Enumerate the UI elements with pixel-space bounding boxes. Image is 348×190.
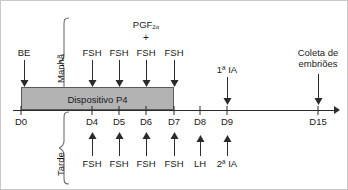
coleta-line-2: embriões	[298, 58, 339, 69]
tick-label-d6: D6	[140, 116, 152, 127]
event-label-lh: LH	[194, 158, 206, 169]
arrow-fsh7	[142, 132, 151, 156]
tick-label-d7: D7	[168, 116, 180, 127]
event-label-fsh7: FSH	[137, 158, 156, 169]
event-label-fsh2: FSH	[110, 47, 129, 58]
tick-label-d4: D4	[86, 116, 98, 127]
event-label-coleta: Coleta de embriões	[298, 47, 339, 69]
arrow-fsh2	[115, 60, 124, 87]
tick-label-d8: D8	[194, 116, 206, 127]
tick-d5	[119, 106, 120, 115]
arrow-ia1	[223, 77, 232, 105]
device-p4-bar: Dispositivo P4	[21, 87, 174, 110]
event-label-be: BE	[18, 47, 31, 58]
event-label-fsh6: FSH	[110, 158, 129, 169]
tick-d6	[146, 106, 147, 115]
arrow-fsh6	[115, 132, 124, 156]
timeline-axis	[13, 110, 338, 111]
device-p4-label: Dispositivo P4	[67, 93, 127, 104]
arrow-be	[20, 60, 29, 87]
event-label-fsh8: FSH	[165, 158, 184, 169]
event-label-fsh5: FSH	[83, 158, 102, 169]
arrow-ia2	[223, 135, 232, 156]
morning-period-label: Manhã	[55, 54, 66, 83]
arrow-lh	[196, 135, 205, 156]
tick-label-d5: D5	[113, 116, 125, 127]
arrow-fsh3	[142, 60, 151, 87]
pgf-base: PGF	[133, 19, 153, 30]
event-label-fsh3: FSH	[137, 47, 156, 58]
tick-d8	[200, 106, 201, 115]
pgf-subscript: 2α	[152, 24, 159, 30]
tick-label-d9: D9	[221, 116, 233, 127]
event-label-fsh4: FSH	[165, 47, 184, 58]
tick-label-d0: D0	[15, 116, 27, 127]
coleta-line-1: Coleta de	[298, 47, 339, 58]
event-label-ia2: 2ª IA	[217, 158, 237, 169]
tick-d9	[227, 106, 228, 115]
event-label-fsh1: FSH	[83, 47, 102, 58]
arrow-fsh5	[88, 132, 97, 156]
arrow-fsh1	[88, 60, 97, 87]
tick-d0	[21, 106, 22, 115]
diagram-canvas: Manhã Tarde PGF2α + BE FSH FSH FSH FSH 1…	[0, 0, 348, 190]
arrow-coleta	[314, 74, 323, 105]
tick-d4	[92, 106, 93, 115]
timeline-arrowhead	[334, 106, 340, 114]
arrow-fsh8	[170, 132, 179, 156]
event-label-ia1: 1ª IA	[217, 64, 237, 75]
afternoon-period-label: Tarde	[55, 152, 66, 176]
tick-d15	[318, 106, 319, 115]
pgf-plus-sign: +	[143, 32, 149, 43]
tick-d7	[174, 106, 175, 115]
arrow-fsh4	[170, 60, 179, 87]
pgf-annotation: PGF2α	[133, 19, 159, 33]
tick-label-d15: D15	[309, 116, 326, 127]
